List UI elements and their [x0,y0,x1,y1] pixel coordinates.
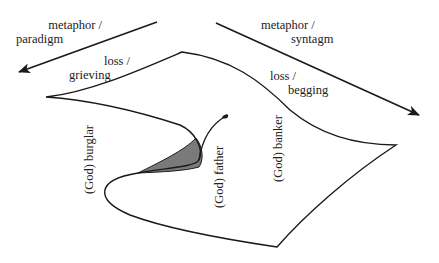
label-loss-grieving-line1: loss / [69,54,130,68]
label-loss-begging-line2: begging [270,83,328,97]
label-metaphor-paradigm-line1: metaphor / [16,18,102,32]
label-loss-begging: loss / begging [270,69,328,97]
label-metaphor-paradigm: metaphor / paradigm [16,18,102,46]
label-metaphor-syntagm: metaphor / syntagm [261,18,333,46]
label-metaphor-paradigm-line2: paradigm [16,32,102,46]
label-metaphor-syntagm-line1: metaphor / [261,18,333,32]
label-god-burglar: (God) burglar [82,125,97,194]
label-loss-grieving-line2: grieving [69,68,130,82]
label-god-banker: (God) banker [271,115,286,182]
label-loss-grieving: loss / grieving [69,54,130,82]
label-god-father: (God) father [212,146,227,208]
label-loss-begging-line1: loss / [270,69,328,83]
label-metaphor-syntagm-line2: syntagm [261,32,333,46]
father-tail-tip [222,114,228,118]
